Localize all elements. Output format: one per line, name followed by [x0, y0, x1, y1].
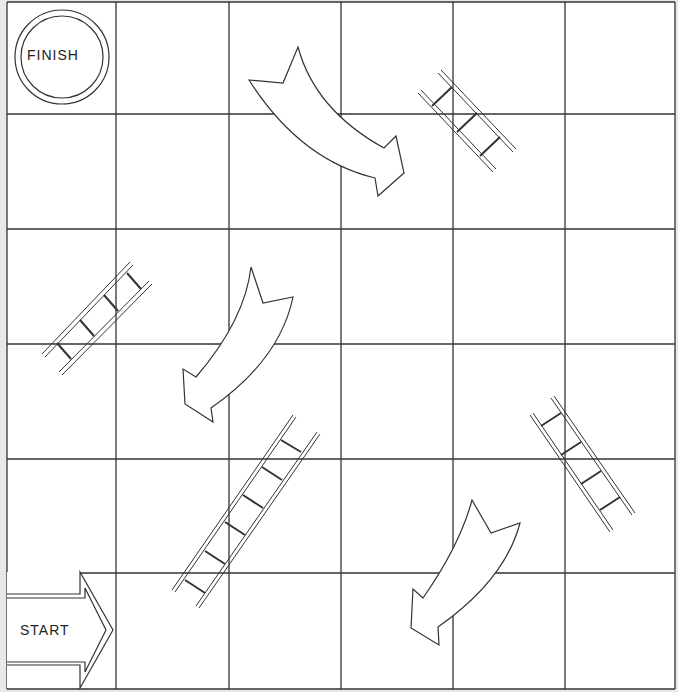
- game-board: FINISH START: [0, 0, 678, 692]
- start-label: START: [20, 622, 70, 638]
- finish-label: FINISH: [27, 47, 79, 63]
